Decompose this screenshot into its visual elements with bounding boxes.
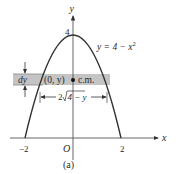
- width-radicand-label: 4 − y: [68, 92, 87, 102]
- dy-label: dy: [18, 75, 28, 85]
- width-coef-label: 2: [58, 92, 63, 102]
- x-tick-neg2: −2: [19, 144, 29, 154]
- center-of-mass-dot: [71, 78, 75, 82]
- center-of-mass-diagram: y x 4 −2 O 2 y = 4 − x2 dy (0, y) c.m. 2…: [0, 0, 183, 174]
- point-label: (0, y): [44, 75, 65, 86]
- y-axis-label: y: [69, 3, 75, 14]
- x-tick-2: 2: [120, 144, 125, 154]
- y-tick-4: 4: [65, 27, 70, 37]
- x-axis-label: x: [161, 132, 167, 143]
- figure-caption: (a): [63, 159, 74, 171]
- center-of-mass-label: c.m.: [78, 75, 94, 85]
- curve-equation-label: y = 4 − x2: [96, 40, 136, 52]
- origin-label: O: [63, 143, 70, 154]
